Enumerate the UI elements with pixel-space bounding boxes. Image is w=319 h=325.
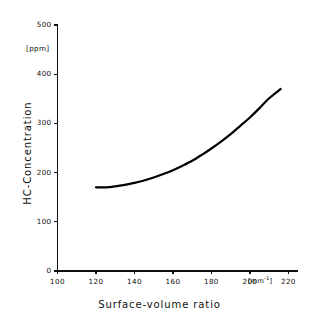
axis-lines [58, 25, 299, 271]
axis-ticks [54, 25, 288, 274]
x-tick-label: 220 [281, 278, 296, 285]
y-tick-label: 500 [18, 21, 52, 28]
x-tick-label: 140 [127, 278, 142, 285]
x-tick-label: 160 [166, 278, 181, 285]
y-axis-unit-label: [ppm] [26, 45, 50, 52]
x-tick-label: 180 [204, 278, 219, 285]
x-axis-unit-label: [mm-1] [248, 278, 272, 285]
series-layer [96, 89, 281, 187]
x-tick-label: 120 [89, 278, 104, 285]
data-series-line [96, 89, 281, 187]
y-tick-label: 0 [18, 267, 52, 274]
x-unit-prefix: [mm [248, 277, 264, 285]
x-tick-label: 100 [50, 278, 65, 285]
chart-figure: 0100200300400500 100120140160180200220 [… [0, 0, 319, 325]
x-axis-title: Surface-volume ratio [0, 300, 319, 310]
x-unit-suffix: ] [269, 277, 272, 285]
y-axis-title: HC-Concentration [23, 63, 33, 243]
